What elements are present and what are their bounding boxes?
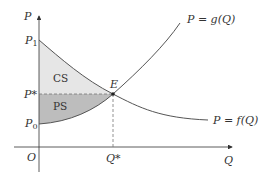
p0-label: P0 [24, 117, 38, 131]
p1-label: P1 [24, 34, 38, 48]
consumer-surplus-region [39, 40, 113, 94]
p-star-label: P* [23, 88, 37, 101]
y-axis-label: P [23, 10, 32, 23]
demand-curve-label: P = f(Q) [212, 114, 258, 127]
consumer-surplus-label: CS [53, 72, 68, 84]
x-axis-label: Q [224, 154, 233, 167]
q-star-label: Q* [106, 152, 121, 165]
producer-surplus-label: PS [53, 100, 67, 112]
supply-curve-label: P = g(Q) [186, 13, 235, 26]
equilibrium-label: E [109, 78, 118, 91]
surplus-diagram: P Q O P1 P* P0 Q* E CS PS P = g(Q) P = f… [0, 0, 272, 181]
equilibrium-point [111, 92, 115, 96]
producer-surplus-region [39, 94, 113, 124]
origin-label: O [27, 151, 36, 164]
